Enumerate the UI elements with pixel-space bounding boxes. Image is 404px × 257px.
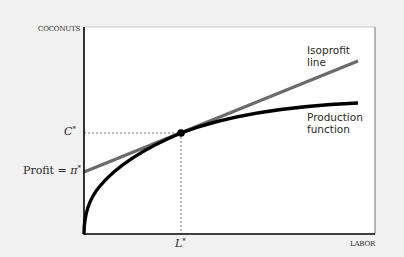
production-annotation-line2: function — [307, 123, 363, 135]
isoprofit-annotation-line2: line — [307, 56, 350, 68]
tangent-point-marker — [177, 129, 185, 137]
c-star-superscript: * — [72, 125, 76, 133]
l-star-label: L* — [175, 237, 186, 250]
production-annotation: Production function — [307, 111, 363, 135]
profit-intercept-label: Profit = π* — [23, 164, 81, 177]
profit-prefix: Profit = — [23, 164, 70, 177]
c-star-label: C* — [64, 125, 76, 138]
isoprofit-annotation-line1: Isoprofit — [307, 44, 350, 56]
production-annotation-line1: Production — [307, 111, 363, 123]
isoprofit-annotation: Isoprofit line — [307, 44, 350, 68]
l-star-superscript: * — [182, 237, 186, 245]
x-axis-title: LABOR — [350, 240, 375, 248]
y-axis-title: COCONUTS — [38, 25, 80, 33]
pi-superscript: * — [77, 164, 81, 172]
